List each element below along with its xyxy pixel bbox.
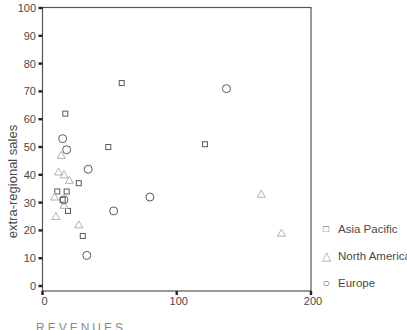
data-point-asia-pacific — [119, 81, 124, 86]
square-marker-icon: □ — [317, 222, 335, 236]
data-point-north-america — [75, 221, 83, 228]
legend-label-europe: Europe — [335, 277, 375, 289]
data-point-asia-pacific — [76, 181, 81, 186]
data-point-asia-pacific — [80, 233, 85, 238]
circle-marker-icon: ○ — [317, 276, 335, 290]
y-tick-label-80: 80 — [24, 58, 36, 70]
y-tick-label-20: 20 — [24, 224, 36, 236]
data-point-north-america — [257, 190, 265, 197]
data-point-asia-pacific — [63, 111, 68, 116]
y-tick-label-60: 60 — [24, 113, 36, 125]
y-tick-20 — [39, 229, 43, 231]
legend-item-asia-pacific: □ Asia Pacific — [317, 222, 407, 236]
y-tick-90 — [39, 35, 43, 37]
y-tick-label-40: 40 — [24, 169, 36, 181]
triangle-marker-icon: △ — [317, 249, 335, 263]
y-tick-10 — [39, 257, 43, 259]
y-tick-40 — [39, 174, 43, 176]
data-point-europe — [83, 251, 91, 259]
data-point-asia-pacific — [106, 145, 111, 150]
data-point-europe — [63, 146, 71, 154]
y-tick-label-50: 50 — [24, 141, 36, 153]
y-tick-label-100: 100 — [18, 2, 36, 14]
y-tick-50 — [39, 146, 43, 148]
data-point-europe — [84, 165, 92, 173]
y-tick-100 — [39, 7, 43, 9]
data-point-north-america — [277, 229, 285, 236]
y-tick-30 — [39, 201, 43, 203]
data-point-asia-pacific — [66, 208, 71, 213]
y-tick-label-30: 30 — [24, 197, 36, 209]
y-tick-60 — [39, 118, 43, 120]
y-tick-70 — [39, 90, 43, 92]
y-tick-0 — [39, 285, 43, 287]
legend: □ Asia Pacific △ North America ○ Europe — [317, 222, 407, 303]
y-axis-title: extra-regional sales — [5, 82, 20, 282]
x-tick-label-0: 0 — [41, 295, 47, 307]
data-point-europe — [222, 85, 230, 93]
data-point-asia-pacific — [64, 189, 69, 194]
data-point-asia-pacific — [55, 189, 60, 194]
data-point-asia-pacific — [202, 142, 207, 147]
legend-label-north-america: North America — [335, 250, 407, 262]
x-axis-title-cutoff: REVENUES — [36, 321, 126, 330]
x-tick-label-100: 100 — [170, 295, 188, 307]
legend-item-europe: ○ Europe — [317, 276, 407, 290]
plot-frame — [43, 8, 312, 292]
data-point-europe — [110, 207, 118, 215]
data-point-europe — [59, 135, 67, 143]
data-point-north-america — [52, 213, 60, 220]
y-tick-label-90: 90 — [24, 30, 36, 42]
data-point-europe — [146, 193, 154, 201]
y-tick-80 — [39, 62, 43, 64]
y-tick-label-10: 10 — [24, 252, 36, 264]
y-tick-label-0: 0 — [30, 280, 36, 292]
y-tick-label-70: 70 — [24, 85, 36, 97]
legend-item-north-america: △ North America — [317, 249, 407, 263]
chart-canvas: 01020304050607080901000100200 extra-regi… — [0, 0, 407, 330]
legend-label-asia-pacific: Asia Pacific — [335, 223, 397, 235]
data-point-north-america — [55, 168, 63, 175]
